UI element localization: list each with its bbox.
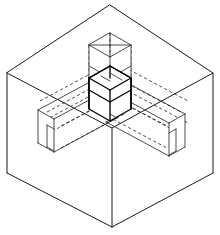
isometric-figure-root: Isometric cube with internal orthogonal … (0, 0, 220, 235)
isometric-drawing-canvas (0, 0, 220, 235)
outer-cube-bottom-left-edge (7, 173, 112, 227)
right-arm-hidden-end-cross (124, 67, 188, 101)
outer-cube-bottom-right-edge (112, 173, 213, 227)
right-arm-bottom-front-edge (106, 122, 169, 156)
right-arm-end-face-fill (169, 114, 185, 156)
central-cube-core (89, 66, 131, 121)
